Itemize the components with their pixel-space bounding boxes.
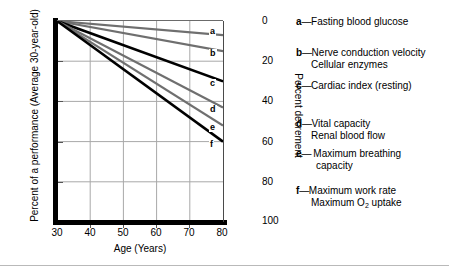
series-letter-e: e <box>209 123 216 132</box>
axis-spine-right <box>223 21 224 222</box>
y2-axis-label-60: 60 <box>262 137 273 147</box>
legend-item-d: d—Vital capacity Renal blood flow <box>296 118 385 142</box>
y-axis-title-left: Percent of a performance (Average 30-yea… <box>29 6 40 226</box>
axis-spine-top <box>57 20 223 21</box>
legend-subtext-d: Renal blood flow <box>296 130 385 142</box>
bottom-divider <box>0 265 449 266</box>
y-tickmark-80 <box>58 61 63 62</box>
legend-text-d: Vital capacity <box>312 118 371 129</box>
x-axis-title: Age (Years) <box>57 243 223 254</box>
legend-dash-d: — <box>302 118 312 129</box>
legend-subtext-f-suffix: uptake <box>369 197 402 208</box>
x-axis-label-30: 30 <box>42 228 72 238</box>
series-letter-c: c <box>209 79 216 88</box>
y-tickmark-20 <box>58 182 63 183</box>
legend-subtext-f-prefix: Maximum O <box>311 197 365 208</box>
y-tickmark-60 <box>58 101 63 102</box>
series-line-f <box>57 21 223 142</box>
y2-axis-label-0: 0 <box>262 16 268 26</box>
x-axis-label-40: 40 <box>75 228 105 238</box>
x-axis-label-60: 60 <box>141 228 171 238</box>
legend-item-c: c—Cardiac index (resting) <box>296 80 412 92</box>
series-letter-d: d <box>209 105 217 114</box>
legend-item-e: e— Maximum breathing capacity <box>296 148 401 172</box>
y-tickmark-40 <box>58 142 63 143</box>
data-series <box>57 21 223 142</box>
legend-dash-f: — <box>299 185 309 196</box>
x-axis-label-70: 70 <box>174 228 204 238</box>
series-letter-b: b <box>209 49 217 58</box>
chart-area: a b c d e f 100 80 60 40 20 0 0 20 40 60… <box>0 0 285 255</box>
legend-subtext-e: capacity <box>296 160 401 172</box>
legend-item-b: b—Nerve conduction velocity Cellular enz… <box>296 47 426 71</box>
series-letter-f: f <box>209 140 214 149</box>
legend-text-a: Fasting blood glucose <box>311 16 408 27</box>
series-letter-a: a <box>209 27 216 36</box>
legend-subtext-f: Maximum O2 uptake <box>296 197 402 210</box>
legend-subtext-b: Cellular enzymes <box>296 59 426 71</box>
legend-dash-e: — <box>302 148 314 159</box>
legend-subtext-f-subscript: 2 <box>365 202 369 209</box>
legend-text-f: Maximum work rate <box>309 185 396 196</box>
legend-dash-c: — <box>302 80 312 91</box>
plot-region: a b c d e f <box>57 21 223 222</box>
figure-root: a b c d e f 100 80 60 40 20 0 0 20 40 60… <box>0 0 449 271</box>
legend-text-e: Maximum breathing <box>313 148 401 159</box>
legend-dash-a: — <box>302 16 312 27</box>
legend-text-b: Nerve conduction velocity <box>312 47 426 58</box>
axis-spine-bottom <box>53 220 227 225</box>
x-axis-label-50: 50 <box>108 228 138 238</box>
y2-axis-label-20: 20 <box>262 56 273 66</box>
plot-svg <box>57 21 223 222</box>
y2-axis-label-40: 40 <box>262 96 273 106</box>
legend-text-c: Cardiac index (resting) <box>311 80 412 91</box>
axis-spine-left <box>53 18 58 225</box>
legend-item-a: a—Fasting blood glucose <box>296 16 408 28</box>
legend-dash-b: — <box>302 47 312 58</box>
legend-item-f: f—Maximum work rate Maximum O2 uptake <box>296 185 402 210</box>
y2-axis-label-100: 100 <box>262 216 279 226</box>
y2-axis-label-80: 80 <box>262 177 273 187</box>
x-axis-label-80: 80 <box>207 228 237 238</box>
